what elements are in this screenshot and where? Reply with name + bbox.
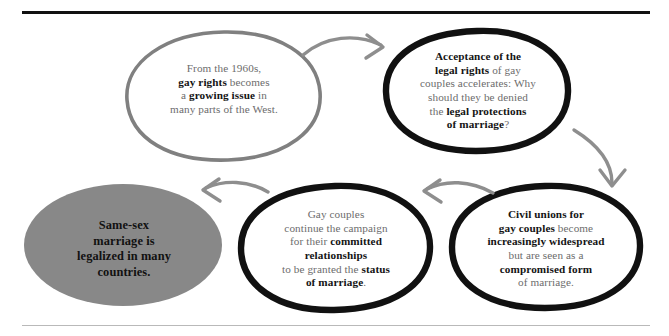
node-2-label: Acceptance of thelegal rights of gaycoup… bbox=[392, 50, 564, 132]
arrow-node4-to-node5 bbox=[203, 179, 268, 201]
diagram-canvas: From the 1960s,gay rights becomesa growi… bbox=[0, 0, 669, 336]
arrow-node2-to-node3 bbox=[574, 130, 625, 186]
node-4-label: Gay couplescontinue the campaignfor thei… bbox=[246, 208, 426, 290]
node-1-label: From the 1960s,gay rights becomesa growi… bbox=[140, 62, 308, 117]
bottom-divider-rule bbox=[22, 325, 650, 326]
arrow-node1-to-node2 bbox=[303, 35, 383, 58]
node-3-label: Civil unions forgay couples becomeincrea… bbox=[456, 208, 636, 290]
node-5-label: Same-sexmarriage islegalized in manycoun… bbox=[42, 218, 206, 281]
